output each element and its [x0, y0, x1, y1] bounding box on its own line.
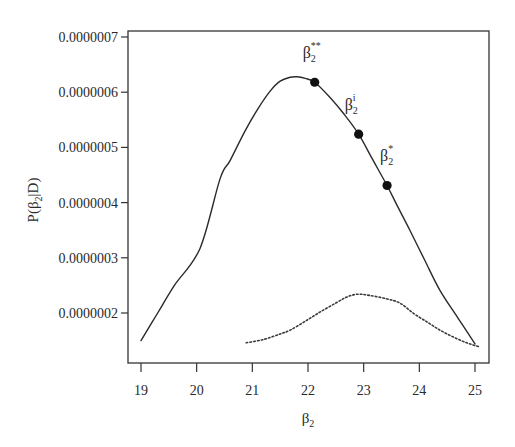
posterior-density-chart: 0.00000020.00000030.00000040.00000050.00…	[0, 0, 515, 447]
y-tick-label: 0.0000005	[59, 140, 119, 155]
x-tick-label: 19	[134, 383, 148, 398]
y-tick-label: 0.0000003	[59, 251, 119, 266]
series-layer	[141, 77, 479, 347]
y-tick-label: 0.0000007	[59, 30, 119, 45]
y-axis-title-suffix: |D)	[25, 178, 42, 197]
y-tick-label: 0.0000006	[59, 85, 119, 100]
plot-frame	[128, 31, 489, 363]
point-label: β2**	[303, 40, 321, 64]
x-tick-label: 25	[468, 383, 482, 398]
y-axis: 0.00000020.00000030.00000040.00000050.00…	[59, 30, 129, 321]
plot-border	[128, 31, 489, 363]
x-axis-title: β2	[302, 410, 315, 429]
highlight-point	[354, 130, 363, 139]
solid-density-curve	[141, 77, 475, 344]
highlight-point	[382, 181, 391, 190]
y-tick-label: 0.0000002	[59, 306, 119, 321]
x-tick-label: 21	[245, 383, 259, 398]
point-label: β2*	[380, 143, 393, 167]
x-axis-title-sub: 2	[309, 418, 314, 429]
x-tick-label: 24	[412, 383, 426, 398]
x-axis: 19202122232425	[134, 363, 482, 398]
y-axis-title-prefix: P(β	[25, 201, 42, 222]
x-axis-title-base: β	[302, 410, 310, 426]
point-label: β2i	[345, 92, 358, 116]
x-tick-label: 22	[301, 383, 315, 398]
dotted-density-curve	[246, 294, 479, 347]
y-axis-title: P(β2|D)	[25, 178, 44, 223]
x-tick-label: 23	[357, 383, 371, 398]
highlight-point	[310, 78, 319, 87]
y-tick-label: 0.0000004	[59, 196, 119, 211]
x-tick-label: 20	[190, 383, 204, 398]
annotation-layer: β2**β2iβ2*	[303, 40, 394, 190]
